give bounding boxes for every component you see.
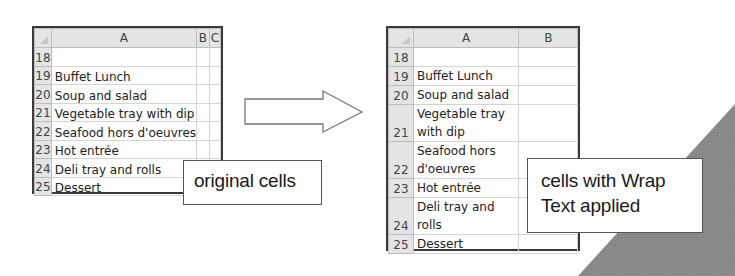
cell-a19[interactable]: Buffet Lunch xyxy=(413,66,519,85)
cell-a21[interactable]: Vegetable tray with dip xyxy=(51,103,196,122)
table-row: 21 Vegetable tray with dip xyxy=(35,103,221,122)
row-header[interactable]: 19 xyxy=(389,66,414,85)
cell-c21[interactable] xyxy=(209,103,220,122)
column-header-c[interactable]: C xyxy=(209,29,220,48)
cell-a22[interactable]: Seafood hors d'oeuvres xyxy=(413,141,519,178)
row-header[interactable]: 25 xyxy=(389,234,414,253)
table-row: 20 Soup and salad xyxy=(35,85,221,104)
row-header[interactable]: 22 xyxy=(35,122,52,141)
cell-a24[interactable]: Deli tray and rolls xyxy=(51,159,196,178)
cell-a22[interactable]: Seafood hors d'oeuvres xyxy=(51,122,196,141)
select-all-corner[interactable] xyxy=(389,29,414,48)
cell-a18[interactable] xyxy=(413,48,519,67)
row-header[interactable]: 24 xyxy=(389,197,414,234)
table-row: 20 Soup and salad xyxy=(389,85,578,104)
table-row: 18 xyxy=(389,48,578,67)
row-header[interactable]: 23 xyxy=(389,178,414,197)
table-row: 21 Vegetable tray with dip xyxy=(389,104,578,141)
row-header[interactable]: 20 xyxy=(35,85,52,104)
callout-original-label: original cells xyxy=(194,170,296,191)
cell-a23[interactable]: Hot entrée xyxy=(413,178,519,197)
cell-b23[interactable] xyxy=(197,140,210,159)
row-header[interactable]: 18 xyxy=(389,48,414,67)
callout-wrapped-line2: Text applied xyxy=(541,193,702,218)
row-header[interactable]: 24 xyxy=(35,159,52,178)
row-header[interactable]: 21 xyxy=(389,104,414,141)
table-row: 19 Buffet Lunch xyxy=(35,66,221,85)
cell-b21[interactable] xyxy=(519,104,578,141)
callout-wrapped-line1: cells with Wrap xyxy=(541,168,702,193)
cell-b19[interactable] xyxy=(197,66,210,85)
table-row: 19 Buffet Lunch xyxy=(389,66,578,85)
select-all-corner[interactable] xyxy=(35,29,52,48)
row-header[interactable]: 25 xyxy=(35,177,52,196)
column-header-a[interactable]: A xyxy=(413,29,519,48)
cell-c18[interactable] xyxy=(209,48,220,67)
cell-a25[interactable]: Dessert xyxy=(413,234,519,253)
cell-a25[interactable]: Dessert xyxy=(51,177,196,196)
table-row: 23 Hot entrée xyxy=(35,140,221,159)
row-header[interactable]: 21 xyxy=(35,103,52,122)
cell-a21[interactable]: Vegetable tray with dip xyxy=(413,104,519,141)
cell-b18[interactable] xyxy=(197,48,210,67)
column-header-b[interactable]: B xyxy=(519,29,578,48)
table-row: 18 xyxy=(35,48,221,67)
column-header-a[interactable]: A xyxy=(51,29,196,48)
column-header-b[interactable]: B xyxy=(197,29,210,48)
cell-b20[interactable] xyxy=(197,85,210,104)
right-arrow-icon xyxy=(240,86,366,138)
cell-a20[interactable]: Soup and salad xyxy=(413,85,519,104)
row-header[interactable]: 18 xyxy=(35,48,52,67)
cell-b21[interactable] xyxy=(197,103,210,122)
cell-a18[interactable] xyxy=(51,48,196,67)
cell-a23[interactable]: Hot entrée xyxy=(51,140,196,159)
row-header[interactable]: 23 xyxy=(35,140,52,159)
cell-b18[interactable] xyxy=(519,48,578,67)
row-header[interactable]: 19 xyxy=(35,66,52,85)
callout-original-cells: original cells xyxy=(183,160,322,205)
cell-c22[interactable] xyxy=(209,122,220,141)
row-header[interactable]: 20 xyxy=(389,85,414,104)
cell-b25[interactable] xyxy=(519,234,578,253)
table-row: 22 Seafood hors d'oeuvres xyxy=(35,122,221,141)
row-header[interactable]: 22 xyxy=(389,141,414,178)
cell-c23[interactable] xyxy=(209,140,220,159)
cell-c19[interactable] xyxy=(209,66,220,85)
cell-b20[interactable] xyxy=(519,85,578,104)
cell-a24[interactable]: Deli tray and rolls xyxy=(413,197,519,234)
cell-a20[interactable]: Soup and salad xyxy=(51,85,196,104)
cell-b22[interactable] xyxy=(197,122,210,141)
cell-c20[interactable] xyxy=(209,85,220,104)
cell-b19[interactable] xyxy=(519,66,578,85)
table-row: 25 Dessert xyxy=(389,234,578,253)
callout-wrapped-cells: cells with Wrap Text applied xyxy=(527,158,703,233)
cell-a19[interactable]: Buffet Lunch xyxy=(51,66,196,85)
